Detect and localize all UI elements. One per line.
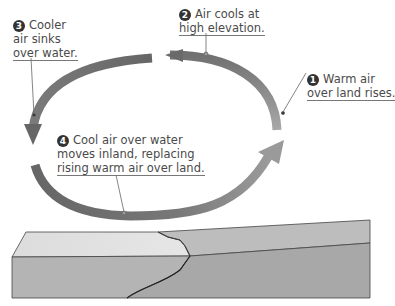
step-3-number-icon: 3	[13, 20, 25, 32]
step-2-label: 2Air cools at high elevation.	[179, 7, 265, 36]
step-2-number-icon: 2	[179, 9, 191, 21]
step-3-label: 3Cooler air sinks over water.	[13, 18, 78, 61]
land-water-block	[12, 220, 370, 298]
arrow-cool-air-sinks	[24, 58, 152, 145]
arrow-warm-air-rises	[165, 49, 277, 130]
step-4-label: 4Cool air over water moves inland, repla…	[57, 133, 205, 176]
arrowhead-down-icon	[24, 124, 42, 145]
step-1-number-icon: 1	[307, 74, 319, 86]
step-1-label: 1Warm air over land rises.	[307, 72, 395, 101]
step-4-number-icon: 4	[57, 135, 69, 147]
